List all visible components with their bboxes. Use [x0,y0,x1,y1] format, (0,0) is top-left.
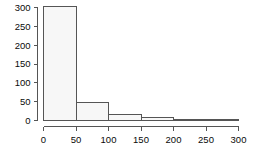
histogram-bar [44,6,77,120]
y-tick-label: 50 [20,96,31,107]
y-tick-label: 250 [15,21,31,32]
y-tick-label: 200 [15,40,31,51]
figure-background [0,0,257,154]
histogram-bar [141,117,174,120]
y-tick-label: 150 [15,58,31,69]
x-tick-label: 50 [71,134,82,145]
x-tick-label: 200 [166,134,182,145]
histogram-bar [76,102,109,120]
y-tick-label: 100 [15,77,31,88]
y-tick-label: 300 [15,2,31,13]
histogram-bar [206,120,239,121]
y-tick-label: 0 [25,115,30,126]
x-tick-label: 100 [101,134,117,145]
histogram-bar [174,120,207,121]
x-tick-label: 150 [133,134,149,145]
x-tick-label: 300 [231,134,247,145]
x-tick-label: 0 [41,134,46,145]
x-tick-label: 250 [198,134,214,145]
plot-area: 050100150200250300 050100150200250300 [0,0,257,154]
histogram-bar [109,114,142,120]
histogram-figure: 050100150200250300 050100150200250300 [0,0,257,154]
